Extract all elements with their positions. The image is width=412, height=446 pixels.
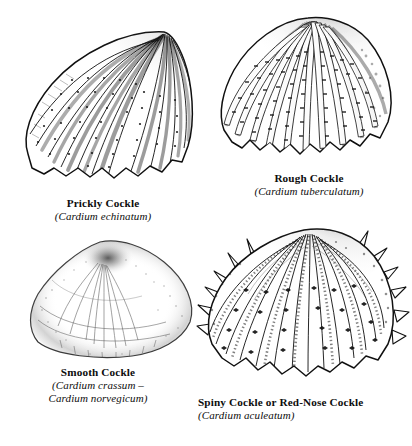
scientific-name-smooth-cockle-line1: (Cardium crassum –	[0, 379, 196, 392]
common-name-rough-cockle: Rough Cockle	[206, 172, 412, 185]
prickly-cockle-drawing	[14, 22, 200, 194]
caption-smooth-cockle: Smooth Cockle (Cardium crassum – Cardium…	[0, 366, 196, 405]
rough-cockle-drawing	[216, 12, 400, 172]
figure-prickly-cockle	[14, 22, 200, 194]
common-name-prickly-cockle: Prickly Cockle	[0, 197, 206, 210]
caption-rough-cockle: Rough Cockle (Cardium tuberculatum)	[206, 172, 412, 198]
figure-smooth-cockle	[26, 236, 198, 364]
caption-prickly-cockle: Prickly Cockle (Cardium echinatum)	[0, 197, 206, 223]
common-name-spiny-cockle: Spiny Cockle or Red-Nose Cockle	[198, 396, 412, 409]
scientific-name-spiny-cockle: (Cardium aculeatum)	[198, 409, 412, 422]
scientific-name-prickly-cockle: (Cardium echinatum)	[0, 210, 206, 223]
shell-illustration-plate: Prickly Cockle (Cardium echinatum)	[0, 0, 412, 446]
scientific-name-smooth-cockle-line2: Cardium norvegicum)	[0, 392, 196, 405]
common-name-smooth-cockle: Smooth Cockle	[0, 366, 196, 379]
spiny-cockle-drawing	[196, 226, 410, 396]
figure-rough-cockle	[216, 12, 400, 172]
scientific-name-rough-cockle: (Cardium tuberculatum)	[206, 185, 412, 198]
figure-spiny-cockle	[196, 226, 410, 396]
smooth-cockle-drawing	[26, 236, 198, 364]
caption-spiny-cockle: Spiny Cockle or Red-Nose Cockle (Cardium…	[198, 396, 412, 422]
